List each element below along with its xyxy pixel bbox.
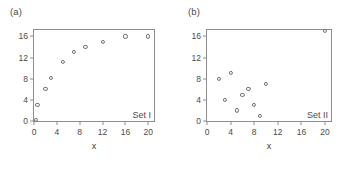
y-axis-tick-label: 0 bbox=[196, 116, 201, 126]
x-axis-tick bbox=[230, 121, 231, 125]
data-point bbox=[35, 103, 39, 107]
x-axis-tick bbox=[125, 121, 126, 125]
data-point bbox=[258, 114, 262, 118]
x-axis-tick-label: 12 bbox=[273, 127, 282, 137]
y-axis-tick bbox=[203, 99, 207, 100]
data-point bbox=[246, 87, 250, 91]
data-point bbox=[323, 29, 327, 33]
x-axis-tick bbox=[254, 121, 255, 125]
panel-a-label: (a) bbox=[10, 6, 22, 17]
data-point bbox=[72, 50, 76, 54]
panel-a: (a) Set I 0481216048121620x bbox=[0, 0, 178, 175]
x-axis-tick bbox=[277, 121, 278, 125]
data-point bbox=[83, 45, 87, 49]
y-axis-tick-label: 12 bbox=[192, 53, 201, 63]
x-axis-tick-label: 12 bbox=[98, 127, 107, 137]
x-axis-tick-label: 8 bbox=[77, 127, 82, 137]
two-panel-scatter-figure: (a) Set I 0481216048121620x (b) Set II 0… bbox=[0, 0, 357, 175]
data-point bbox=[240, 92, 244, 96]
x-axis-title: x bbox=[92, 141, 97, 151]
x-axis-tick bbox=[79, 121, 80, 125]
y-axis-tick-label: 4 bbox=[196, 95, 201, 105]
panel-b-plot-area: Set II 0481216048121620x bbox=[206, 29, 332, 122]
panel-b-set-label: Set II bbox=[307, 110, 328, 120]
x-axis-tick bbox=[148, 121, 149, 125]
y-axis-tick bbox=[30, 99, 34, 100]
x-axis-tick bbox=[56, 121, 57, 125]
data-point bbox=[49, 76, 53, 80]
y-axis-tick bbox=[203, 78, 207, 79]
x-axis-tick-label: 16 bbox=[121, 127, 130, 137]
panel-b-label: (b) bbox=[188, 6, 200, 17]
data-point bbox=[123, 34, 127, 38]
x-axis-tick-label: 16 bbox=[297, 127, 306, 137]
y-axis-tick bbox=[203, 57, 207, 58]
y-axis-tick-label: 8 bbox=[23, 74, 28, 84]
y-axis-tick-label: 16 bbox=[192, 31, 201, 41]
data-point bbox=[100, 40, 104, 44]
data-point bbox=[34, 118, 38, 122]
y-axis-tick bbox=[30, 78, 34, 79]
data-point bbox=[43, 87, 47, 91]
x-axis-tick-label: 4 bbox=[54, 127, 59, 137]
data-point bbox=[229, 71, 233, 75]
panel-a-set-label: Set I bbox=[132, 110, 151, 120]
y-axis-tick bbox=[30, 57, 34, 58]
x-axis-tick-label: 20 bbox=[144, 127, 153, 137]
y-axis-tick-label: 16 bbox=[19, 31, 28, 41]
x-axis-tick-label: 4 bbox=[228, 127, 233, 137]
y-axis-tick-label: 0 bbox=[23, 116, 28, 126]
data-point bbox=[252, 103, 256, 107]
x-axis-tick bbox=[325, 121, 326, 125]
data-point bbox=[234, 108, 238, 112]
x-axis-tick-label: 0 bbox=[32, 127, 37, 137]
x-axis-tick-label: 0 bbox=[205, 127, 210, 137]
x-axis-title: x bbox=[267, 141, 272, 151]
data-point bbox=[146, 34, 150, 38]
data-point bbox=[223, 98, 227, 102]
y-axis-tick-label: 12 bbox=[19, 53, 28, 63]
x-axis-tick bbox=[102, 121, 103, 125]
panel-a-plot-area: Set I 0481216048121620x bbox=[33, 29, 155, 122]
data-point bbox=[217, 77, 221, 81]
y-axis-tick-label: 8 bbox=[196, 74, 201, 84]
data-point bbox=[60, 60, 64, 64]
x-axis-tick-label: 20 bbox=[320, 127, 329, 137]
data-point bbox=[264, 82, 268, 86]
panel-b: (b) Set II 0481216048121620x bbox=[178, 0, 356, 175]
x-axis-tick bbox=[207, 121, 208, 125]
y-axis-tick bbox=[203, 36, 207, 37]
x-axis-tick-label: 8 bbox=[252, 127, 257, 137]
x-axis-tick bbox=[301, 121, 302, 125]
y-axis-tick bbox=[30, 36, 34, 37]
y-axis-tick-label: 4 bbox=[23, 95, 28, 105]
